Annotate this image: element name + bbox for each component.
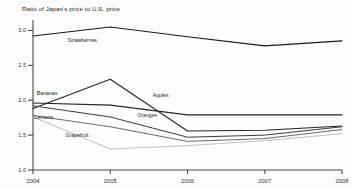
x-tick-label: 2004 [27,178,41,184]
x-tick-label: 2008 [336,178,349,184]
y-axis-ticks: 3.02.52.01.51.0 [18,27,33,173]
y-tick-label: 1.0 [18,167,26,173]
x-tick-label: 2005 [104,178,117,184]
series-labels-group: StrawberriesApplesBananasOrangesLemonsGr… [35,37,169,137]
y-tick-label: 2.0 [18,97,26,103]
x-tick-label: 2006 [181,178,194,184]
series-label-apples: Apples [153,92,169,98]
chart-container: Ratio of Japan's price to U.S. price 3.0… [0,0,352,189]
y-tick-label: 1.5 [18,132,26,138]
series-label-bananas: Bananas [37,90,58,96]
series-label-strawberries: Strawberries [68,37,98,43]
y-tick-label: 2.5 [18,62,26,68]
x-axis-ticks: 20042005200620072008 [27,170,349,184]
line-chart-plot: 3.02.52.01.51.0 20042005200620072008 Str… [0,0,352,189]
series-label-oranges: Oranges [137,112,157,118]
series-label-lemons: Lemons [35,114,54,120]
series-line-bananas [33,103,342,115]
x-tick-label: 2007 [258,178,271,184]
series-line-apples [33,79,342,131]
y-tick-label: 3.0 [18,27,26,33]
series-label-grapefruit: Grapefruit [65,132,89,138]
